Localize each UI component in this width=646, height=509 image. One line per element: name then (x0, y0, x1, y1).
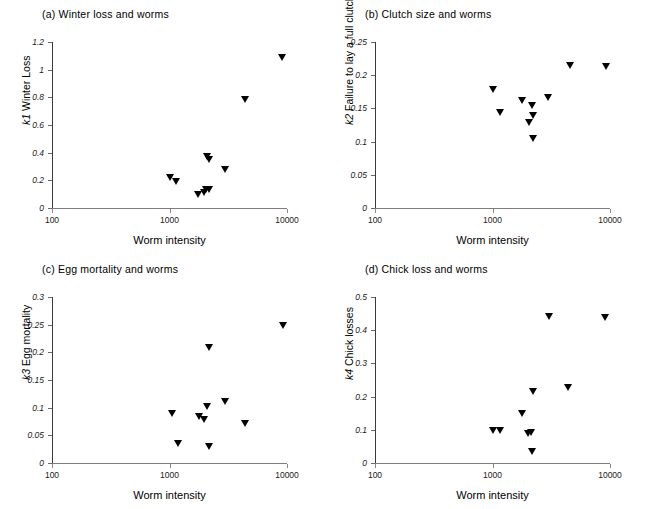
y-tick-label: 0.5 (327, 292, 367, 302)
x-tick (375, 464, 376, 468)
panel-a: (a) Winter loss and worms00.20.40.60.811… (0, 0, 323, 254)
y-tick-label: 0.4 (4, 148, 44, 158)
x-axis-label: Worm intensity (456, 234, 529, 246)
data-point-marker (241, 96, 249, 103)
y-axis-label-symbol: k1 (20, 114, 32, 125)
data-point-marker (544, 94, 552, 101)
data-point-marker (221, 398, 229, 405)
panel-title: (d) Chick loss and worms (365, 263, 488, 275)
y-tick-label: 0.05 (327, 170, 367, 180)
y-axis-label: k4 Chick losses (343, 307, 355, 380)
y-axis-label-text: Chick losses (343, 307, 355, 369)
data-point-marker (205, 156, 213, 163)
panel-title: (b) Clutch size and worms (365, 8, 491, 20)
y-tick (48, 42, 52, 43)
x-tick (610, 464, 611, 468)
x-tick (493, 209, 494, 213)
y-tick (48, 297, 52, 298)
y-axis-line (52, 42, 53, 208)
x-tick-label: 1000 (483, 470, 502, 480)
data-point-marker (564, 384, 572, 391)
y-axis-label: k2 Failure to lay a full clutch (343, 0, 355, 125)
x-axis-label: Worm intensity (133, 234, 206, 246)
y-axis-label-text: Egg mortality (20, 305, 32, 369)
data-point-marker (205, 186, 213, 193)
plot-area: 00.20.40.60.811.2100100010000 (52, 42, 287, 208)
data-point-marker (518, 97, 526, 104)
data-point-marker (241, 420, 249, 427)
data-point-marker (566, 62, 574, 69)
data-point-marker (205, 443, 213, 450)
y-tick (371, 175, 375, 176)
y-tick (48, 180, 52, 181)
x-axis-label: Worm intensity (456, 489, 529, 501)
y-axis-line (52, 297, 53, 463)
x-tick (610, 209, 611, 213)
data-point-marker (174, 440, 182, 447)
x-tick-label: 1000 (160, 215, 179, 225)
data-point-marker (496, 427, 504, 434)
y-tick-label: 0 (4, 203, 44, 213)
y-axis-label: k1 Winter Loss (20, 56, 32, 125)
x-tick-label: 100 (45, 215, 59, 225)
panel-title: (a) Winter loss and worms (42, 8, 169, 20)
data-point-marker (529, 388, 537, 395)
y-tick-label: 0 (327, 458, 367, 468)
panel-d: (d) Chick loss and worms00.10.20.30.40.5… (323, 255, 646, 509)
y-tick (371, 297, 375, 298)
data-point-marker (601, 314, 609, 321)
y-tick (371, 330, 375, 331)
data-point-marker (528, 448, 536, 455)
data-point-marker (496, 109, 504, 116)
x-tick-label: 10000 (275, 470, 299, 480)
x-tick-label: 100 (368, 470, 382, 480)
y-tick (48, 380, 52, 381)
y-axis-label-text: Failure to lay a full clutch (343, 0, 355, 114)
data-point-marker (518, 410, 526, 417)
y-axis-label-symbol: k4 (343, 369, 355, 380)
data-point-marker (278, 54, 286, 61)
y-tick (48, 70, 52, 71)
y-tick (48, 125, 52, 126)
data-point-marker (200, 416, 208, 423)
y-tick (48, 408, 52, 409)
y-tick (371, 142, 375, 143)
y-tick (48, 352, 52, 353)
y-tick-label: 0.1 (4, 403, 44, 413)
data-point-marker (545, 313, 553, 320)
data-point-marker (221, 166, 229, 173)
figure-panel-grid: (a) Winter loss and worms00.20.40.60.811… (0, 0, 646, 509)
data-point-marker (172, 178, 180, 185)
x-tick-label: 10000 (598, 470, 622, 480)
plot-area: 00.10.20.30.40.5100100010000 (375, 297, 610, 463)
x-tick-label: 10000 (598, 215, 622, 225)
x-tick (287, 464, 288, 468)
data-point-marker (525, 119, 533, 126)
y-tick-label: 0.2 (4, 175, 44, 185)
y-tick (371, 75, 375, 76)
x-tick (493, 464, 494, 468)
plot-area: 00.050.10.150.20.250.3100100010000 (52, 297, 287, 463)
x-tick (287, 209, 288, 213)
x-tick-label: 10000 (275, 215, 299, 225)
panel-title: (c) Egg mortality and worms (42, 263, 178, 275)
y-tick-label: 0 (4, 458, 44, 468)
y-tick (48, 97, 52, 98)
data-point-marker (205, 344, 213, 351)
y-tick-label: 0.05 (4, 430, 44, 440)
y-tick-label: 0 (327, 203, 367, 213)
data-point-marker (529, 112, 537, 119)
data-point-marker (168, 410, 176, 417)
y-axis-label-symbol: k3 (20, 369, 32, 380)
x-tick (170, 209, 171, 213)
x-tick-label: 100 (45, 470, 59, 480)
x-tick (170, 464, 171, 468)
x-tick (52, 464, 53, 468)
x-tick (375, 209, 376, 213)
y-tick (48, 435, 52, 436)
plot-area: 00.050.10.150.20.25100100010000 (375, 42, 610, 208)
y-axis-label-symbol: k2 (343, 114, 355, 125)
data-point-marker (527, 429, 535, 436)
y-tick (371, 108, 375, 109)
y-tick-label: 0.1 (327, 137, 367, 147)
